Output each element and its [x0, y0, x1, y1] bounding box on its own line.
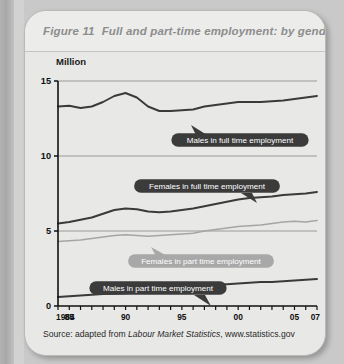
- x-tick-label: 90: [121, 312, 131, 322]
- y-tick-label: 10: [41, 151, 51, 161]
- page-gutter: [14, 0, 24, 364]
- x-tick-label: 95: [177, 312, 187, 322]
- x-tick-label: 85: [65, 312, 75, 322]
- x-tick-label: 07: [311, 312, 321, 322]
- x-tick-label: 05: [290, 312, 300, 322]
- x-tick-label: 00: [234, 312, 244, 322]
- callout-2: Females in full time employment: [134, 179, 280, 203]
- line-chart-svg: 0510151984859095000507 Males in full tim…: [25, 11, 325, 355]
- callout-label: Males in full time employment: [187, 136, 294, 145]
- callout-label: Males in part time employment: [103, 284, 214, 293]
- source-suffix: , www.statistics.gov: [220, 329, 295, 339]
- callout-label: Females in part time employment: [141, 257, 261, 266]
- figure-card: Figure 11Full and part-time employment: …: [24, 10, 326, 356]
- y-tick-label: 5: [46, 226, 51, 236]
- source-prefix: Source: adapted from: [43, 329, 126, 339]
- callout-label: Females in full time employment: [149, 182, 266, 191]
- callout-4: Males in part time employment: [89, 281, 226, 306]
- series-callouts: Males in full time employmentFemales in …: [89, 125, 308, 306]
- page-left-edge: [0, 0, 14, 364]
- callout-3: Females in part time employment: [128, 247, 274, 268]
- source-note: Source: adapted from Labour Market Stati…: [43, 329, 295, 339]
- chart-plot-area: 0510151984859095000507 Males in full tim…: [25, 11, 325, 355]
- y-tick-label: 15: [41, 76, 51, 86]
- source-publication: Labour Market Statistics: [128, 329, 220, 339]
- callout-1: Males in full time employment: [171, 125, 308, 147]
- y-tick-label: 0: [46, 301, 51, 311]
